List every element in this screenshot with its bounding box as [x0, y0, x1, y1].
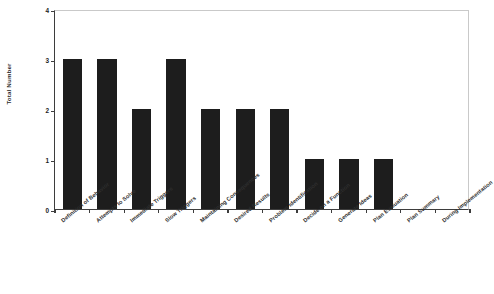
x-tick-mark — [331, 209, 332, 213]
y-tick-label: 0 — [45, 206, 49, 215]
y-tick-mark — [51, 161, 55, 162]
x-tick-mark — [469, 209, 470, 213]
x-tick-mark — [400, 209, 401, 213]
y-tick-label: 1 — [45, 156, 49, 165]
plot-area: 01234 — [54, 10, 469, 210]
bar — [63, 59, 82, 209]
y-tick-mark — [51, 11, 55, 12]
y-tick-label: 4 — [45, 6, 49, 15]
x-tick-mark — [262, 209, 263, 213]
x-tick-mark — [124, 209, 125, 213]
y-tick-label: 2 — [45, 106, 49, 115]
x-tick-mark — [366, 209, 367, 213]
y-tick-mark — [51, 111, 55, 112]
x-tick-mark — [296, 209, 297, 213]
x-tick-mark — [435, 209, 436, 213]
y-tick-label: 3 — [45, 56, 49, 65]
x-tick-mark — [89, 209, 90, 213]
x-tick-mark — [193, 209, 194, 213]
bar — [270, 109, 289, 209]
y-axis-title: Total Number — [3, 44, 15, 124]
bar — [201, 109, 220, 209]
x-tick-mark — [54, 209, 55, 213]
x-tick-mark — [227, 209, 228, 213]
bar — [374, 159, 393, 209]
x-tick-mark — [158, 209, 159, 213]
y-tick-mark — [51, 61, 55, 62]
